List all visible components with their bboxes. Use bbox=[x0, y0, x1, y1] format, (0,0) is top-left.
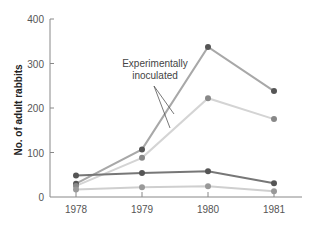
series-line-control-light bbox=[76, 186, 274, 191]
y-tick-label: 0 bbox=[38, 192, 44, 203]
annotation-pointer bbox=[154, 86, 174, 114]
data-point-control-light bbox=[205, 183, 211, 189]
y-tick-label: 300 bbox=[27, 59, 44, 70]
data-point-control-dark bbox=[139, 170, 145, 176]
y-tick-label: 400 bbox=[27, 14, 44, 25]
x-tick-label: 1980 bbox=[197, 204, 220, 215]
data-point-inoculated-dark bbox=[139, 146, 145, 152]
x-tick-label: 1978 bbox=[65, 204, 88, 215]
y-axis-title: No. of adult rabbits bbox=[13, 64, 24, 156]
annotation-pointer bbox=[154, 86, 170, 128]
data-point-control-light bbox=[139, 184, 145, 190]
data-point-control-dark bbox=[73, 173, 79, 179]
y-tick-label: 200 bbox=[27, 103, 44, 114]
data-point-inoculated-light bbox=[205, 95, 211, 101]
line-chart: 01002003004001978197919801981 Experiment… bbox=[0, 0, 320, 234]
data-point-control-light bbox=[271, 188, 277, 194]
data-point-control-dark bbox=[205, 168, 211, 174]
annotation-text: inoculated bbox=[132, 70, 178, 81]
data-point-control-dark bbox=[271, 180, 277, 186]
data-point-inoculated-dark bbox=[271, 88, 277, 94]
data-point-inoculated-light bbox=[139, 155, 145, 161]
x-tick-label: 1981 bbox=[263, 204, 286, 215]
annotation-text: Experimentally bbox=[122, 58, 188, 69]
data-point-control-light bbox=[73, 186, 79, 192]
data-point-inoculated-light bbox=[271, 116, 277, 122]
data-point-inoculated-dark bbox=[205, 44, 211, 50]
y-tick-label: 100 bbox=[27, 148, 44, 159]
x-tick-label: 1979 bbox=[131, 204, 154, 215]
